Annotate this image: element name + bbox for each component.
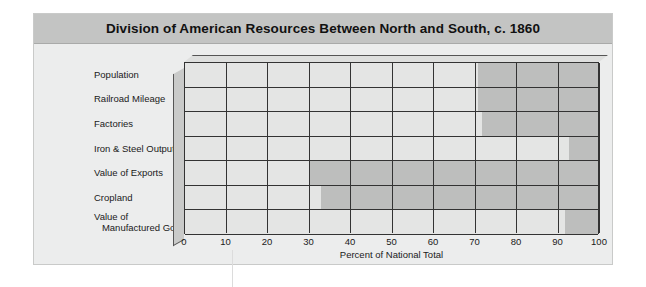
gridline-vertical	[516, 63, 517, 233]
x-tick-label: 30	[303, 236, 314, 247]
gridline-vertical	[226, 63, 227, 233]
plot-depth-left-panel	[173, 68, 184, 246]
x-axis-title: Percent of National Total	[184, 249, 599, 260]
bar-segment-north	[185, 161, 309, 185]
category-label: Population	[94, 69, 139, 80]
bar-segment-north	[185, 137, 569, 161]
category-label: Cropland	[94, 192, 133, 203]
x-tick-label: 100	[591, 236, 607, 247]
gridline-vertical	[350, 63, 351, 233]
plot-grid-frame	[184, 62, 599, 234]
scan-crease-artifact	[232, 250, 233, 287]
gridline-vertical	[475, 63, 476, 233]
bar-segment-north	[185, 88, 478, 112]
chart-figure: Division of American Resources Between N…	[33, 13, 613, 265]
gridline-vertical	[599, 63, 600, 233]
plot-area	[184, 62, 599, 234]
category-axis-labels: PopulationRailroad MileageFactoriesIron …	[54, 62, 179, 234]
x-tick-label: 20	[262, 236, 273, 247]
gridline-vertical	[392, 63, 393, 233]
x-tick-label: 80	[511, 236, 522, 247]
bar-segment-south	[321, 186, 598, 210]
bar-segment-north	[185, 210, 565, 234]
plot-depth-top-bevel	[184, 55, 608, 62]
bar-segment-south	[482, 112, 598, 136]
bar-segment-north	[185, 112, 482, 136]
x-tick-label: 40	[345, 236, 356, 247]
x-tick-label: 70	[469, 236, 480, 247]
page-title: Division of American Resources Between N…	[106, 21, 540, 36]
category-label: Railroad Mileage	[94, 93, 165, 104]
gridline-vertical	[433, 63, 434, 233]
category-label: Factories	[94, 118, 133, 129]
gridline-vertical	[309, 63, 310, 233]
bar-segment-south	[565, 210, 598, 234]
category-label: Iron & Steel Output	[94, 143, 175, 154]
bar-segment-north	[185, 186, 321, 210]
bar-segment-south	[478, 88, 598, 112]
x-tick-label: 50	[386, 236, 397, 247]
x-tick-label: 0	[181, 236, 186, 247]
bar-segment-south	[478, 63, 598, 87]
bar-segment-south	[569, 137, 598, 161]
chart-title-bar: Division of American Resources Between N…	[34, 14, 612, 44]
gridline-vertical	[558, 63, 559, 233]
x-tick-label: 90	[552, 236, 563, 247]
gridline-vertical	[267, 63, 268, 233]
x-tick-label: 60	[428, 236, 439, 247]
bar-segment-north	[185, 63, 478, 87]
bar-segment-south	[309, 161, 598, 185]
x-tick-label: 10	[220, 236, 231, 247]
category-label: Value of Exports	[94, 167, 163, 178]
